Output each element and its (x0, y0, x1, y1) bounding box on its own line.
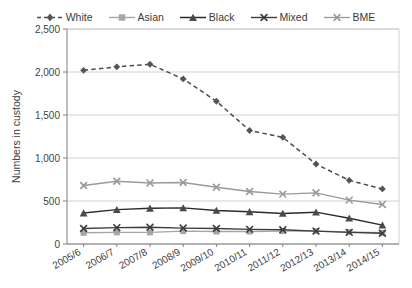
x-tick-label: 2010/11 (212, 246, 249, 273)
y-axis-title: Numbers in custody (10, 89, 22, 183)
data-point (80, 67, 87, 74)
y-tick-label: 1,000 (35, 153, 60, 164)
y-tick-label: 500 (43, 196, 60, 207)
y-tick-label: 2,500 (35, 24, 60, 35)
x-tick-label: 2009/10 (179, 246, 216, 274)
data-point (379, 186, 386, 193)
y-tick-label: 2,000 (35, 67, 60, 78)
data-point (313, 161, 320, 168)
series-white (80, 61, 386, 193)
x-tick-label: 2011/12 (246, 246, 283, 273)
y-tick-label: 1,500 (35, 110, 60, 121)
x-tick-label: 2008/9 (150, 246, 182, 271)
chart-axes (63, 29, 399, 247)
series-line (84, 208, 383, 225)
series-black (80, 204, 387, 228)
x-tick-label: 2012/13 (278, 246, 315, 274)
data-point (113, 63, 120, 70)
data-point (180, 75, 187, 82)
data-point (246, 127, 253, 134)
chart-container: White Asian Black (0, 0, 412, 288)
x-tick-label: 2006/7 (84, 246, 116, 271)
series-line (84, 64, 383, 189)
chart-plot: 05001,0001,5002,0002,500 2005/62006/7200… (0, 0, 412, 288)
x-tick-label: 2007/8 (117, 246, 149, 271)
series-bme (80, 178, 386, 208)
data-point (346, 177, 353, 184)
x-tick-label: 2014/15 (345, 246, 382, 274)
x-tick-label: 2005/6 (51, 246, 83, 271)
chart-x-tick-labels: 2005/62006/72007/82008/92009/102010/1120… (51, 246, 382, 274)
y-tick-label: 0 (54, 239, 60, 250)
series-mixed (80, 224, 386, 237)
x-tick-label: 2013/14 (311, 246, 348, 274)
data-point (147, 61, 154, 68)
chart-y-tick-labels: 05001,0001,5002,0002,500 (35, 24, 60, 250)
chart-series-group (80, 61, 387, 237)
